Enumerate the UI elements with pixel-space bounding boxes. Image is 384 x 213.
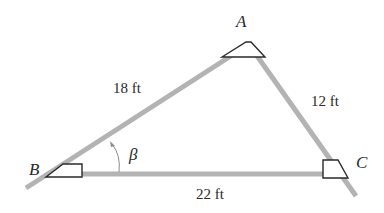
side-bc-label: 22 ft	[196, 186, 224, 203]
side-ac-label: 12 ft	[311, 93, 339, 110]
vertex-b-label: B	[29, 160, 39, 180]
triangle-diagram: A B C 18 ft 12 ft 22 ft β	[0, 0, 384, 213]
beta-angle-arc	[112, 144, 119, 172]
vertex-a-label: A	[236, 12, 246, 32]
beta-arrowhead-icon	[110, 141, 115, 147]
vertex-c-marker	[323, 160, 348, 178]
vertex-a-marker	[222, 42, 265, 57]
side-ab-label: 18 ft	[113, 80, 141, 97]
vertex-c-label: C	[356, 153, 367, 173]
angle-beta-label: β	[129, 145, 137, 165]
